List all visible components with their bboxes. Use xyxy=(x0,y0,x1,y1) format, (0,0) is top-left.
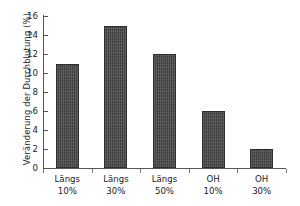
y-tick-label-wrap: 16 xyxy=(4,12,38,13)
y-tick-label-wrap: 14 xyxy=(4,31,38,32)
x-category-label-line1: OH xyxy=(237,174,286,186)
y-tick-label-wrap: 2 xyxy=(4,145,38,146)
x-category-label-line1: OH xyxy=(189,174,238,186)
x-category-label-line1: Längs xyxy=(43,174,92,186)
x-category-label: Längs50% xyxy=(140,174,189,197)
x-category-label-line1: Längs xyxy=(92,174,141,186)
x-tick-mark xyxy=(286,169,287,173)
x-tick-mark xyxy=(189,169,190,173)
y-tick-label: 16 xyxy=(6,12,38,21)
y-tick-label-wrap: 0 xyxy=(4,164,38,165)
y-tick-label-wrap: 12 xyxy=(4,50,38,51)
bar xyxy=(104,26,127,169)
y-tick-label-wrap: 10 xyxy=(4,69,38,70)
bar xyxy=(250,149,273,168)
bar xyxy=(56,64,79,169)
x-category-label-line2: 50% xyxy=(140,186,189,198)
x-category-label-line2: 10% xyxy=(189,186,238,198)
y-tick-label: 8 xyxy=(6,88,38,97)
y-tick-label: 2 xyxy=(6,145,38,154)
x-axis-line xyxy=(43,168,286,169)
x-category-label: OH30% xyxy=(237,174,286,197)
bar xyxy=(202,111,225,168)
y-tick-label: 0 xyxy=(6,164,38,173)
y-tick-label: 12 xyxy=(6,50,38,59)
bar xyxy=(153,54,176,168)
x-category-label: OH10% xyxy=(189,174,238,197)
y-tick-label-wrap: 8 xyxy=(4,88,38,89)
x-tick-mark xyxy=(237,169,238,173)
y-tick-label: 10 xyxy=(6,69,38,78)
x-category-label-line1: Längs xyxy=(140,174,189,186)
y-tick-label: 6 xyxy=(6,107,38,116)
y-tick-label-wrap: 4 xyxy=(4,126,38,127)
x-tick-mark xyxy=(43,169,44,173)
x-category-label-line2: 30% xyxy=(237,186,286,198)
y-tick-label: 4 xyxy=(6,126,38,135)
bar-chart: Veränderung der Durchblutung (%) 0246810… xyxy=(0,0,300,206)
x-category-label-line2: 30% xyxy=(92,186,141,198)
x-tick-mark xyxy=(92,169,93,173)
plot-area xyxy=(43,16,285,168)
y-tick-mark xyxy=(44,168,48,169)
x-category-label-line2: 10% xyxy=(43,186,92,198)
x-tick-mark xyxy=(140,169,141,173)
x-category-label: Längs30% xyxy=(92,174,141,197)
y-tick-label-wrap: 6 xyxy=(4,107,38,108)
x-category-label: Längs10% xyxy=(43,174,92,197)
y-tick-label: 14 xyxy=(6,31,38,40)
